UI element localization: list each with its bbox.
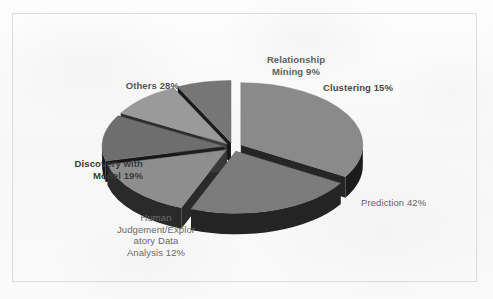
pie-slice-tops: [102, 81, 363, 214]
chart-frame: Relationship Mining 9% Clustering 15% Pr…: [12, 13, 477, 282]
pie-svg: [13, 14, 478, 283]
pie-chart: Relationship Mining 9% Clustering 15% Pr…: [13, 14, 476, 281]
